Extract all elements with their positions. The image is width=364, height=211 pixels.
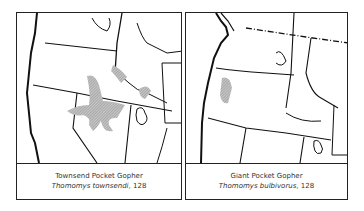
common-name: Giant Pocket Gopher xyxy=(186,171,347,181)
common-name: Townsend Pocket Gopher xyxy=(17,171,181,181)
range-map-panel-townsend: Townsend Pocket Gopher Thomomys townsend… xyxy=(16,12,182,200)
range-map-giant xyxy=(186,13,347,164)
map-caption: Giant Pocket Gopher Thomomys bulbivorus,… xyxy=(186,165,347,191)
range-map-panel-giant: Giant Pocket Gopher Thomomys bulbivorus,… xyxy=(185,12,348,200)
scientific-name: Thomomys bulbivorus, 128 xyxy=(186,181,347,191)
range-map-townsend xyxy=(17,13,181,164)
scientific-name-italic: Thomomys bulbivorus xyxy=(219,182,297,190)
scientific-name-italic: Thomomys townsendi xyxy=(52,182,129,190)
page-reference: , 128 xyxy=(129,182,147,190)
page-reference: , 128 xyxy=(296,182,314,190)
scientific-name: Thomomys townsendi, 128 xyxy=(17,181,181,191)
map-caption: Townsend Pocket Gopher Thomomys townsend… xyxy=(17,165,181,191)
